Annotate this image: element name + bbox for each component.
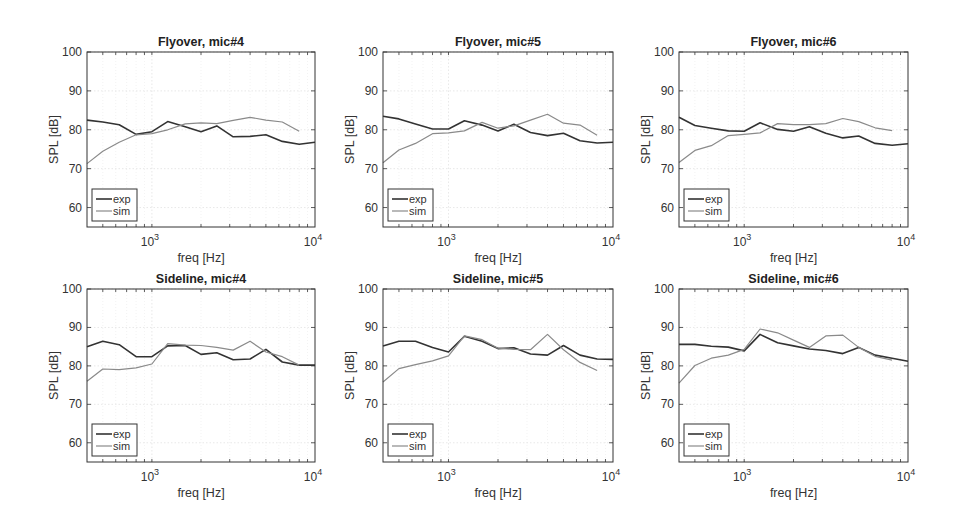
legend-label-sim: sim	[705, 205, 722, 217]
legend: expsim	[92, 189, 137, 221]
legend-label-sim: sim	[113, 440, 130, 452]
y-tick-label: 80	[661, 123, 675, 137]
y-axis-label: SPL [dB]	[47, 351, 61, 400]
y-tick-label: 90	[365, 320, 379, 334]
y-tick-label: 70	[365, 397, 379, 411]
y-tick-label: 80	[69, 123, 83, 137]
series-sim	[87, 341, 299, 381]
x-tick-label: 103	[437, 467, 455, 484]
y-tick-label: 100	[62, 282, 82, 296]
y-axis-label: SPL [dB]	[639, 115, 653, 164]
subplot-title: Sideline, mic#5	[453, 272, 543, 286]
x-tick-label: 104	[304, 232, 322, 249]
y-tick-label: 70	[69, 162, 83, 176]
y-tick-label: 90	[365, 84, 379, 98]
legend-label-exp: exp	[409, 193, 427, 205]
x-tick-label: 104	[897, 232, 915, 249]
x-tick-label: 103	[437, 232, 455, 249]
y-tick-label: 90	[661, 84, 675, 98]
x-tick-label: 104	[602, 232, 620, 249]
y-tick-label: 100	[654, 282, 674, 296]
y-tick-label: 60	[661, 436, 675, 450]
y-tick-label: 100	[358, 282, 378, 296]
y-tick-label: 100	[358, 45, 378, 59]
x-tick-label: 103	[141, 467, 159, 484]
y-tick-label: 100	[62, 45, 82, 59]
subplot-title: Flyover, mic#5	[455, 35, 541, 49]
legend-label-exp: exp	[113, 428, 131, 440]
legend-label-sim: sim	[409, 440, 426, 452]
series-exp	[87, 120, 315, 144]
y-tick-label: 70	[69, 397, 83, 411]
subplot-3: 60708090100103104Flyover, mic#6freq [Hz]…	[639, 35, 915, 265]
series-sim	[679, 119, 892, 163]
y-tick-label: 90	[69, 320, 83, 334]
legend: expsim	[388, 189, 433, 221]
y-tick-label: 70	[365, 162, 379, 176]
subplot-5: 60708090100103104Sideline, mic#5freq [Hz…	[343, 272, 620, 500]
subplot-4: 60708090100103104Sideline, mic#4freq [Hz…	[47, 272, 322, 500]
y-tick-label: 60	[69, 436, 83, 450]
subplot-title: Flyover, mic#4	[158, 35, 244, 49]
y-tick-label: 60	[69, 201, 83, 215]
y-tick-label: 100	[654, 45, 674, 59]
figure: 60708090100103104Flyover, mic#4freq [Hz]…	[0, 0, 962, 530]
y-axis-label: SPL [dB]	[343, 351, 357, 400]
x-tick-label: 103	[733, 232, 751, 249]
subplot-6: 60708090100103104Sideline, mic#6freq [Hz…	[639, 272, 915, 500]
series-sim	[383, 114, 597, 163]
x-axis-label: freq [Hz]	[474, 486, 521, 500]
x-axis-label: freq [Hz]	[474, 251, 521, 265]
legend-label-exp: exp	[705, 428, 723, 440]
subplot-1: 60708090100103104Flyover, mic#4freq [Hz]…	[47, 35, 322, 265]
legend-label-sim: sim	[409, 205, 426, 217]
x-tick-label: 104	[602, 467, 620, 484]
legend: expsim	[684, 424, 729, 456]
subplot-title: Flyover, mic#6	[750, 35, 836, 49]
y-tick-label: 80	[365, 123, 379, 137]
y-tick-label: 60	[365, 201, 379, 215]
x-axis-label: freq [Hz]	[770, 251, 817, 265]
x-axis-label: freq [Hz]	[770, 486, 817, 500]
legend-label-exp: exp	[113, 193, 131, 205]
y-tick-label: 90	[69, 84, 83, 98]
legend-label-exp: exp	[409, 428, 427, 440]
legend: expsim	[684, 189, 729, 221]
y-axis-label: SPL [dB]	[343, 115, 357, 164]
y-tick-label: 70	[661, 162, 675, 176]
legend: expsim	[388, 424, 433, 456]
x-tick-label: 103	[733, 467, 751, 484]
y-axis-label: SPL [dB]	[639, 351, 653, 400]
subplot-2: 60708090100103104Flyover, mic#5freq [Hz]…	[343, 35, 620, 265]
x-axis-label: freq [Hz]	[177, 486, 224, 500]
x-tick-label: 104	[897, 467, 915, 484]
x-tick-label: 103	[141, 232, 159, 249]
legend: expsim	[92, 424, 137, 456]
legend-label-sim: sim	[113, 205, 130, 217]
subplot-title: Sideline, mic#4	[156, 272, 246, 286]
x-axis-label: freq [Hz]	[177, 251, 224, 265]
legend-label-sim: sim	[705, 440, 722, 452]
series-sim	[679, 329, 892, 383]
y-axis-label: SPL [dB]	[47, 115, 61, 164]
subplot-title: Sideline, mic#6	[748, 272, 838, 286]
x-tick-label: 104	[304, 467, 322, 484]
y-tick-label: 60	[365, 436, 379, 450]
y-tick-label: 80	[69, 359, 83, 373]
y-tick-label: 70	[661, 397, 675, 411]
legend-label-exp: exp	[705, 193, 723, 205]
y-tick-label: 90	[661, 320, 675, 334]
y-tick-label: 80	[365, 359, 379, 373]
y-tick-label: 80	[661, 359, 675, 373]
y-tick-label: 60	[661, 201, 675, 215]
series-exp	[383, 116, 613, 143]
